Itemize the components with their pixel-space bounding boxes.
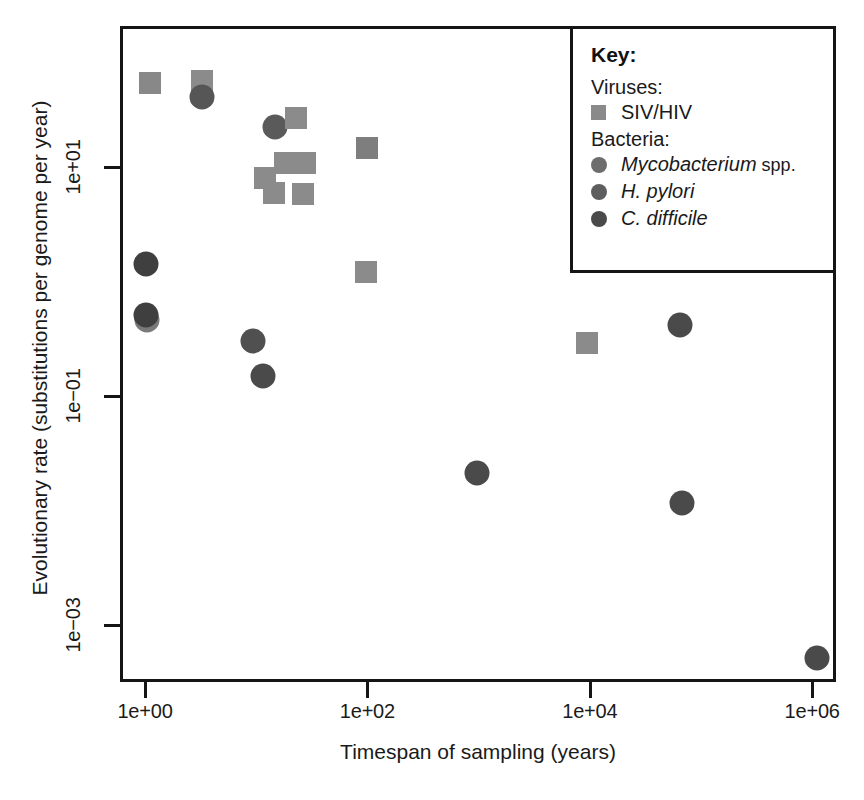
legend-species-suffix: spp.	[757, 155, 796, 175]
x-axis-tick-label: 1e+02	[340, 700, 395, 723]
legend-swatch-circle-icon	[591, 157, 621, 173]
legend-group-label: Viruses:	[591, 76, 833, 99]
y-axis-tick	[104, 166, 120, 169]
data-point-square	[356, 137, 378, 159]
y-axis-tick	[104, 624, 120, 627]
data-point-circle	[134, 252, 159, 277]
y-axis-tick	[104, 395, 120, 398]
legend-species-name: Mycobacterium	[621, 153, 757, 175]
x-axis-tick	[366, 682, 369, 698]
circle-marker-icon	[591, 157, 607, 173]
y-axis-tick-label: 1e−01	[62, 368, 85, 423]
legend-entry[interactable]: SIV/HIV	[591, 101, 833, 124]
legend-entry-label: H. pylori	[621, 180, 694, 203]
data-point-circle	[670, 491, 695, 516]
data-point-circle	[805, 646, 830, 671]
y-axis-tick-label: 1e+01	[62, 139, 85, 194]
legend-entry[interactable]: C. difficile	[591, 207, 833, 230]
legend-swatch-circle-icon	[591, 211, 621, 227]
data-point-square	[355, 261, 377, 283]
x-axis-tick	[589, 682, 592, 698]
legend-entry[interactable]: Mycobacterium spp.	[591, 153, 833, 176]
data-point-circle	[263, 115, 288, 140]
data-point-circle	[134, 303, 159, 328]
data-point-square	[576, 332, 598, 354]
data-point-square	[294, 152, 316, 174]
legend-title: Key:	[591, 43, 833, 67]
data-point-circle	[190, 85, 215, 110]
square-marker-icon	[591, 105, 606, 120]
legend-entry-label: Mycobacterium spp.	[621, 153, 796, 176]
legend-species-name: C. difficile	[621, 207, 708, 229]
legend-group-label: Bacteria:	[591, 128, 833, 151]
data-point-square	[139, 72, 161, 94]
x-axis-title: Timespan of sampling (years)	[120, 740, 836, 764]
legend-swatch-square-icon	[591, 105, 621, 120]
data-point-circle	[465, 461, 490, 486]
legend-entry[interactable]: H. pylori	[591, 180, 833, 203]
legend-swatch-circle-icon	[591, 184, 621, 200]
legend-entry-label: SIV/HIV	[621, 101, 692, 124]
legend-species-name: H. pylori	[621, 180, 694, 202]
legend-box: Key: Viruses:SIV/HIVBacteria:Mycobacteri…	[570, 26, 836, 273]
data-point-circle	[241, 329, 266, 354]
data-point-circle	[668, 313, 693, 338]
x-axis-tick	[144, 682, 147, 698]
legend-entries: Viruses:SIV/HIVBacteria:Mycobacterium sp…	[591, 76, 833, 230]
data-point-square	[285, 107, 307, 129]
legend-entry-label: C. difficile	[621, 207, 708, 230]
scatter-plot-figure: 1e+001e+021e+041e+061e+011e−011e−03 Time…	[0, 0, 864, 800]
data-point-square	[292, 183, 314, 205]
x-axis-tick-label: 1e+00	[117, 700, 172, 723]
data-point-square	[263, 182, 285, 204]
circle-marker-icon	[591, 211, 607, 227]
x-axis-tick-label: 1e+06	[785, 700, 840, 723]
data-point-circle	[251, 364, 276, 389]
circle-marker-icon	[591, 184, 607, 200]
y-axis-tick-label: 1e−03	[62, 597, 85, 652]
data-point-square	[274, 152, 296, 174]
x-axis-tick-label: 1e+04	[562, 700, 617, 723]
y-axis-title: Evolutionary rate (substitutions per gen…	[28, 8, 52, 688]
x-axis-tick	[811, 682, 814, 698]
